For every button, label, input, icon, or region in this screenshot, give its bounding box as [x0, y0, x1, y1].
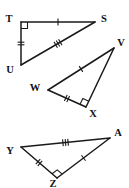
right-angle-marker-z — [52, 170, 62, 174]
tick-mark — [68, 139, 69, 146]
vertex-label-u: U — [6, 64, 14, 75]
triangle-tsu — [18, 19, 95, 65]
vertex-label-v: V — [117, 37, 125, 48]
tick-mark — [65, 139, 66, 146]
right-angle-marker-t — [21, 22, 28, 29]
triangle-yza — [21, 138, 110, 178]
geometry-figure: TSUWVXYAZ — [0, 0, 129, 188]
triangle-wvx — [48, 48, 114, 107]
side-yz — [21, 147, 57, 178]
vertex-label-x: X — [89, 108, 97, 119]
triangles-layer — [18, 19, 114, 178]
vertex-label-w: W — [30, 82, 41, 93]
geometry-canvas: TSUWVXYAZ — [0, 0, 129, 188]
tick-group-us — [54, 39, 62, 47]
vertex-label-y: Y — [6, 145, 14, 156]
tick-mark — [63, 139, 64, 146]
vertex-label-a: A — [114, 127, 122, 138]
vertex-label-z: Z — [49, 178, 56, 188]
vertex-label-s: S — [101, 13, 107, 24]
vertex-label-t: T — [5, 13, 12, 24]
